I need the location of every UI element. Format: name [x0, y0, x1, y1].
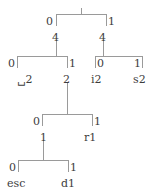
edge-4-0-label: 0 [9, 162, 16, 173]
edge-r-1-label: 1 [134, 58, 141, 69]
node-2-label: 2 [63, 74, 70, 85]
edge-r-0-label: 0 [97, 58, 104, 69]
leaf-i2-label: i2 [91, 74, 102, 85]
leaf-r1-label: r1 [84, 132, 96, 143]
leaf-esc-label: esc [7, 178, 25, 189]
leaf-d1-label: d1 [61, 178, 75, 189]
edge-3-1-label: 1 [94, 116, 101, 127]
edge-l-1-label: 1 [69, 58, 76, 69]
leaf-s2-label: s2 [133, 74, 146, 85]
node-1-label: 1 [40, 132, 47, 143]
tree-edges-svg [0, 0, 155, 193]
edge-l-0-label: 0 [8, 58, 15, 69]
leaf-space-2-label: ␣2 [17, 74, 32, 85]
tree-diagram: 0 1 4 4 0 1 ␣2 2 0 1 i2 s2 0 1 1 r1 0 1 … [0, 0, 155, 193]
node-right-4-label: 4 [99, 32, 106, 43]
edge-root-left-label: 0 [46, 16, 53, 27]
edge-3-0-label: 0 [33, 116, 40, 127]
node-left-4-label: 4 [52, 32, 59, 43]
edge-4-1-label: 1 [70, 162, 77, 173]
edge-root-right-label: 1 [108, 16, 115, 27]
